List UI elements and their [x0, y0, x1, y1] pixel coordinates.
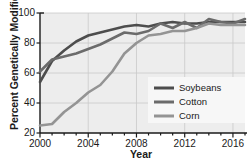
svg-text:Cotton: Cotton [179, 96, 207, 107]
svg-text:60: 60 [24, 67, 36, 78]
svg-text:2012: 2012 [174, 138, 197, 149]
svg-text:2008: 2008 [125, 138, 148, 149]
svg-text:Soybeans: Soybeans [179, 82, 222, 93]
gm-crops-line-chart: Percent Genetically Modified Year 204060… [0, 0, 252, 166]
chart-legend: SoybeansCottonCorn [148, 77, 245, 123]
svg-text:80: 80 [24, 37, 36, 48]
svg-text:2004: 2004 [77, 138, 100, 149]
svg-text:100: 100 [18, 7, 35, 18]
plot-surface: 20406080100 20002004200820122016 Soybean… [0, 0, 252, 166]
svg-text:Corn: Corn [179, 110, 200, 121]
svg-text:40: 40 [24, 97, 36, 108]
x-tick-labels: 20002004200820122016 [29, 138, 245, 149]
svg-text:2000: 2000 [29, 138, 52, 149]
svg-text:20: 20 [24, 127, 36, 138]
svg-text:2016: 2016 [222, 138, 245, 149]
y-tick-labels: 20406080100 [18, 7, 35, 138]
